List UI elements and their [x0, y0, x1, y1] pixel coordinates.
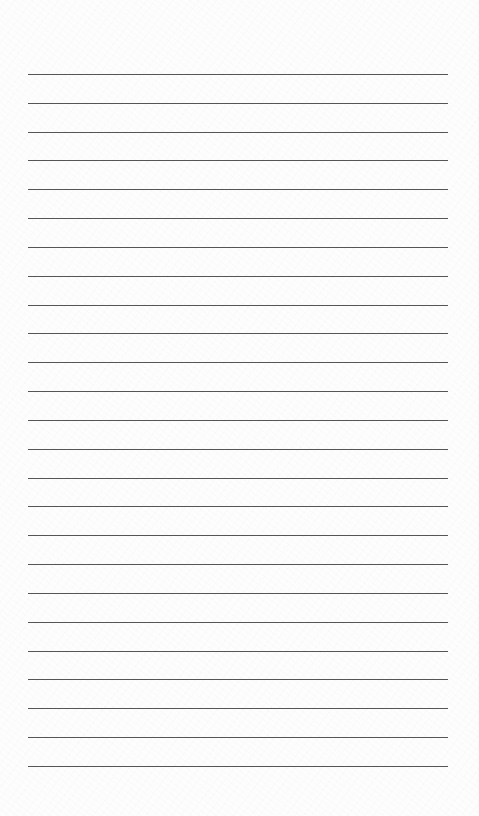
ruled-line: [28, 737, 448, 738]
ruled-line: [28, 333, 448, 334]
ruled-line: [28, 679, 448, 680]
ruled-line: [28, 593, 448, 594]
ruled-line: [28, 305, 448, 306]
ruled-line: [28, 247, 448, 248]
ruled-line: [28, 651, 448, 652]
ruled-line: [28, 74, 448, 75]
ruled-line: [28, 103, 448, 104]
ruled-line: [28, 535, 448, 536]
ruled-line: [28, 189, 448, 190]
ruled-line: [28, 622, 448, 623]
ruled-line: [28, 449, 448, 450]
ruled-line: [28, 391, 448, 392]
ruled-line: [28, 362, 448, 363]
ruled-line: [28, 506, 448, 507]
ruled-line: [28, 766, 448, 767]
ruled-line: [28, 276, 448, 277]
ruled-line: [28, 160, 448, 161]
ruled-line: [28, 132, 448, 133]
ruled-line: [28, 478, 448, 479]
ruled-line: [28, 708, 448, 709]
ruled-line: [28, 218, 448, 219]
lined-paper-page: [0, 0, 479, 816]
ruled-line: [28, 564, 448, 565]
ruled-line: [28, 420, 448, 421]
